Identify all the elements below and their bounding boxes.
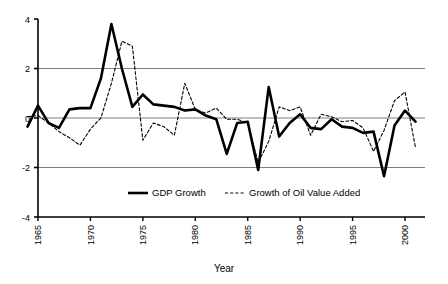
x-tick-label: 2000 (400, 225, 410, 245)
x-tick-label: 1995 (348, 225, 358, 245)
y-tick-label: -2 (22, 163, 30, 173)
line-chart: 420-2-4 19651970197519801985199019952000… (0, 0, 448, 284)
x-tick-label: 1985 (243, 225, 253, 245)
x-tick-label: 1980 (190, 225, 200, 245)
y-tick-label: 2 (25, 64, 30, 74)
x-tick-label: 1975 (138, 225, 148, 245)
chart-container: 420-2-4 19651970197519801985199019952000… (0, 0, 448, 284)
y-tick-label: 4 (25, 15, 30, 25)
legend-label-oil-value-added: Growth of Oil Value Added (249, 187, 360, 198)
x-tick-label: 1965 (33, 225, 43, 245)
legend-label-gdp-growth: GDP Growth (152, 187, 206, 198)
x-tick-label: 1970 (86, 225, 96, 245)
x-axis-title: Year (214, 263, 235, 274)
x-tick-label: 1990 (295, 225, 305, 245)
y-tick-label: -4 (22, 213, 30, 223)
